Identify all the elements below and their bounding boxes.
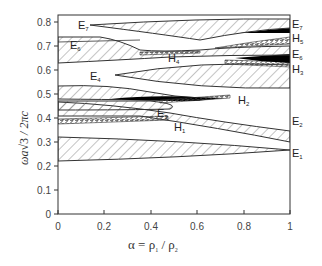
y-tick-label: 0.1 [37,185,51,196]
x-tick-label: 0.4 [144,221,158,232]
x-tick-label: 1 [287,221,293,232]
plot-area [58,19,290,161]
y-tick-label: 0.6 [37,65,51,76]
label-E4: E4 [90,70,101,83]
label-E6-right: E6 [292,48,303,61]
y-axis: 0 0.1 0.2 0.3 0.4 0.5 0.6 0.7 0.8 [37,17,58,220]
label-H2: H2 [238,94,250,107]
x-axis: 0 0.2 0.4 0.6 0.8 1 [55,210,293,232]
y-tick-label: 0.7 [37,41,51,52]
x-tick-label: 0.6 [190,221,204,232]
x-tick-label: 0.2 [97,221,111,232]
gap-E7 [90,19,290,40]
label-E7: E7 [78,19,89,32]
gap-E3 [58,101,173,110]
y-tick-label: 0.4 [37,113,51,124]
label-E7-right: E7 [292,18,303,31]
x-tick-label: 0.8 [237,221,251,232]
y-tick-label: 0.8 [37,17,51,28]
gap-H1 [58,116,168,124]
x-tick-label: 0 [55,221,61,232]
label-H5: H5 [292,32,304,45]
y-tick-label: 0.3 [37,137,51,148]
y-axis-label: ωa√3 / 2πc [17,111,31,165]
gap-E1 [58,137,290,161]
label-H3: H3 [292,63,304,76]
y-tick-label: 0.5 [37,89,51,100]
y-tick-label: 0 [45,209,51,220]
gap-E4 [115,64,290,88]
label-E1: E1 [292,147,303,160]
x-axis-label: α = ρ1 / ρ2 [128,237,178,253]
band-gap-chart: 0 0.1 0.2 0.3 0.4 0.5 0.6 0.7 0.8 0 0.2 … [0,0,322,266]
label-E2: E2 [292,115,303,128]
y-tick-label: 0.2 [37,161,51,172]
